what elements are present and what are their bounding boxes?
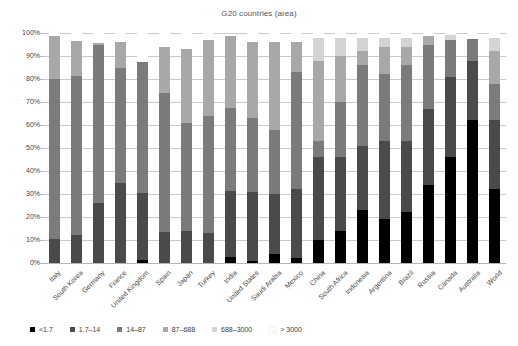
bar-segment[interactable]: [159, 33, 170, 47]
bar-segment[interactable]: [467, 61, 478, 121]
bar-column[interactable]: [181, 33, 192, 263]
bar-segment[interactable]: [93, 33, 104, 43]
bar-segment[interactable]: [423, 109, 434, 185]
bar-segment[interactable]: [489, 38, 500, 52]
bar-segment[interactable]: [203, 116, 214, 233]
bar-segment[interactable]: [357, 146, 368, 210]
bar-segment[interactable]: [313, 61, 324, 142]
bar-segment[interactable]: [71, 41, 82, 76]
bar-segment[interactable]: [335, 56, 346, 102]
bar-segment[interactable]: [49, 36, 60, 79]
bar-segment[interactable]: [291, 189, 302, 258]
bar-segment[interactable]: [445, 40, 456, 77]
bar-column[interactable]: [423, 33, 434, 263]
bar-segment[interactable]: [313, 141, 324, 157]
bar-segment[interactable]: [71, 33, 82, 41]
bar-segment[interactable]: [247, 118, 258, 192]
bar-segment[interactable]: [71, 76, 82, 236]
bar-segment[interactable]: [137, 33, 148, 62]
bar-segment[interactable]: [203, 40, 214, 116]
bar-segment[interactable]: [115, 33, 126, 42]
bar-segment[interactable]: [313, 157, 324, 240]
bar-column[interactable]: [489, 33, 500, 263]
bar-column[interactable]: [203, 33, 214, 263]
bar-segment[interactable]: [181, 49, 192, 123]
bar-segment[interactable]: [357, 210, 368, 263]
bar-segment[interactable]: [357, 38, 368, 52]
bar-segment[interactable]: [379, 47, 390, 75]
bar-segment[interactable]: [291, 258, 302, 263]
bar-segment[interactable]: [269, 33, 280, 42]
bar-segment[interactable]: [335, 38, 346, 56]
bar-segment[interactable]: [225, 257, 236, 263]
bar-column[interactable]: [291, 33, 302, 263]
bar-segment[interactable]: [489, 84, 500, 121]
bar-segment[interactable]: [181, 33, 192, 49]
bar-segment[interactable]: [269, 194, 280, 254]
bar-segment[interactable]: [269, 42, 280, 129]
bar-segment[interactable]: [335, 102, 346, 157]
bar-column[interactable]: [269, 33, 280, 263]
bar-segment[interactable]: [467, 39, 478, 61]
bar-segment[interactable]: [203, 233, 214, 263]
bar-column[interactable]: [335, 33, 346, 263]
bar-segment[interactable]: [313, 240, 324, 263]
bar-segment[interactable]: [379, 74, 390, 141]
bar-segment[interactable]: [93, 45, 104, 204]
bar-segment[interactable]: [115, 68, 126, 183]
bar-column[interactable]: [445, 33, 456, 263]
bar-segment[interactable]: [137, 193, 148, 260]
legend-item[interactable]: 14–87: [117, 326, 145, 333]
bar-segment[interactable]: [203, 33, 214, 40]
legend-item[interactable]: 688–3000: [212, 326, 252, 333]
bar-segment[interactable]: [225, 191, 236, 258]
bar-segment[interactable]: [247, 33, 258, 42]
bar-column[interactable]: [467, 33, 478, 263]
bar-column[interactable]: [115, 33, 126, 263]
bar-column[interactable]: [357, 33, 368, 263]
bar-segment[interactable]: [71, 235, 82, 263]
bar-segment[interactable]: [401, 47, 412, 65]
legend-item[interactable]: > 3000: [269, 326, 302, 333]
bar-segment[interactable]: [291, 72, 302, 189]
bar-column[interactable]: [401, 33, 412, 263]
bar-segment[interactable]: [379, 219, 390, 263]
bar-segment[interactable]: [137, 62, 148, 193]
bar-segment[interactable]: [489, 51, 500, 83]
bar-segment[interactable]: [335, 157, 346, 231]
bar-column[interactable]: [71, 33, 82, 263]
bar-column[interactable]: [313, 33, 324, 263]
bar-column[interactable]: [93, 33, 104, 263]
bar-segment[interactable]: [247, 42, 258, 118]
bar-segment[interactable]: [181, 123, 192, 231]
bar-column[interactable]: [137, 33, 148, 263]
bar-segment[interactable]: [115, 183, 126, 264]
bar-segment[interactable]: [137, 260, 148, 263]
bar-segment[interactable]: [423, 185, 434, 263]
legend-item[interactable]: 87–688: [163, 326, 195, 333]
bar-segment[interactable]: [423, 36, 434, 44]
bar-segment[interactable]: [181, 231, 192, 263]
bar-segment[interactable]: [269, 254, 280, 263]
bar-segment[interactable]: [225, 108, 236, 191]
bar-column[interactable]: [247, 33, 258, 263]
bar-segment[interactable]: [247, 261, 258, 263]
bar-segment[interactable]: [49, 239, 60, 263]
bar-segment[interactable]: [401, 212, 412, 263]
bar-segment[interactable]: [489, 189, 500, 263]
bar-column[interactable]: [225, 33, 236, 263]
bar-segment[interactable]: [159, 93, 170, 232]
bar-segment[interactable]: [291, 33, 302, 42]
bar-segment[interactable]: [379, 141, 390, 219]
bar-segment[interactable]: [357, 51, 368, 65]
bar-segment[interactable]: [115, 42, 126, 67]
bar-segment[interactable]: [313, 38, 324, 61]
bar-segment[interactable]: [423, 45, 434, 109]
bar-segment[interactable]: [225, 36, 236, 107]
legend-item[interactable]: 1.7–14: [70, 326, 100, 333]
bar-segment[interactable]: [379, 38, 390, 47]
bar-segment[interactable]: [159, 47, 170, 93]
bar-segment[interactable]: [467, 120, 478, 263]
bar-segment[interactable]: [247, 192, 258, 261]
bar-column[interactable]: [49, 33, 60, 263]
